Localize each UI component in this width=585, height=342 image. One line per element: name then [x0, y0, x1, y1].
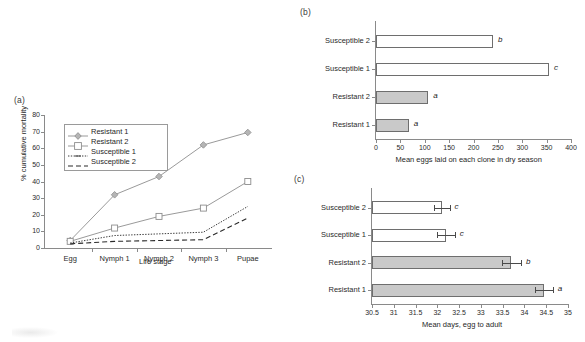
- panelB-x-tick: [547, 140, 548, 143]
- legend-label-susceptible-2: Susceptible 2: [91, 157, 136, 167]
- significance-letter: c: [554, 63, 558, 72]
- panel-a-y-tick: [41, 198, 44, 199]
- category-label-susceptible-2: Susceptible 2: [304, 36, 370, 45]
- category-label-resistant-2: Resistant 2: [304, 92, 370, 101]
- panelB-x-tick: [474, 140, 475, 143]
- error-bar-cap: [535, 287, 536, 293]
- panelC-x-tick: [503, 305, 504, 308]
- significance-letter: a: [414, 119, 418, 128]
- legend-label-susceptible-1: Susceptible 1: [91, 147, 136, 157]
- panelC-x-tick: [459, 305, 460, 308]
- panel-b-label: (b): [300, 7, 311, 17]
- panelB-x-tick: [571, 140, 572, 143]
- panelC-x-tick-label: 35: [552, 309, 584, 316]
- panel-a-y-tick-label: 0: [16, 244, 40, 251]
- significance-letter: c: [455, 202, 459, 211]
- panel-a-line-3: [70, 206, 248, 243]
- legend-swatch-resistant-2: [68, 137, 88, 147]
- panelB-x-tick: [449, 140, 450, 143]
- legend-swatch-susceptible-1: [68, 147, 88, 157]
- panel-a-y-tick-label: 80: [16, 111, 40, 118]
- data-point-marker: [245, 129, 252, 136]
- panel-a-line-2: [70, 182, 248, 242]
- error-bar: [502, 263, 521, 264]
- error-bar-cap: [434, 205, 435, 211]
- bar-susceptible-1: [376, 63, 549, 76]
- panel-a-y-tick: [41, 165, 44, 166]
- scan-artifact: [12, 327, 58, 338]
- error-bar-cap: [437, 232, 438, 238]
- panel-a-line-chart: (a) % cumulative mortality Resistant 1 R…: [0, 95, 300, 270]
- panelC-x-axis: [371, 304, 569, 305]
- legend-swatch-susceptible-2: [68, 157, 88, 167]
- panel-a-x-axis: [44, 248, 272, 249]
- category-label-susceptible-1: Susceptible 1: [304, 64, 370, 73]
- legend-item-susceptible-2: Susceptible 2: [68, 157, 164, 167]
- panel-a-y-tick: [41, 132, 44, 133]
- significance-letter: a: [558, 284, 562, 293]
- panelC-x-tick: [394, 305, 395, 308]
- panel-a-x-tick: [226, 249, 227, 252]
- panelB-x-tick: [498, 140, 499, 143]
- error-bar-cap: [521, 260, 522, 266]
- error-bar: [434, 208, 450, 209]
- panel-a-y-tick-label: 50: [16, 161, 40, 168]
- panelB-y-tick: [372, 125, 375, 126]
- data-point-marker: [245, 179, 251, 185]
- category-label-susceptible-2: Susceptible 2: [300, 203, 366, 212]
- panel-a-x-tick: [137, 249, 138, 252]
- legend-label-resistant-1: Resistant 1: [91, 127, 129, 137]
- significance-letter: c: [460, 229, 464, 238]
- legend-item-resistant-1: Resistant 1: [68, 127, 164, 137]
- panelB-y-tick: [372, 97, 375, 98]
- panelC-y-tick: [368, 263, 371, 264]
- significance-letter: b: [498, 35, 502, 44]
- panelB-x-tick: [376, 140, 377, 143]
- panelB-x-tick: [522, 140, 523, 143]
- panel-c-label: (c): [294, 174, 305, 184]
- legend-label-resistant-2: Resistant 2: [91, 137, 129, 147]
- data-point-marker: [200, 142, 207, 149]
- bar-susceptible-2: [372, 201, 442, 214]
- panelB-x-tick: [425, 140, 426, 143]
- panel-b-bar-chart: (b) Mean eggs laid on each clone in dry …: [298, 5, 585, 173]
- category-label-resistant-1: Resistant 1: [304, 120, 370, 129]
- data-point-marker: [112, 225, 118, 231]
- panel-c-bar-chart: (c) Mean days, egg to adult 30.53131.532…: [292, 172, 585, 342]
- panelC-x-tick: [416, 305, 417, 308]
- panelB-x-tick-label: 400: [555, 144, 585, 151]
- data-point-marker: [156, 213, 162, 219]
- panelC-x-tick: [546, 305, 547, 308]
- error-bar-cap: [455, 232, 456, 238]
- panelB-y-tick: [372, 69, 375, 70]
- panel-a-y-tick: [41, 215, 44, 216]
- panel-a-y-tick-label: 20: [16, 211, 40, 218]
- panelC-y-tick: [368, 235, 371, 236]
- error-bar: [437, 235, 454, 236]
- panel-a-y-tick-label: 30: [16, 194, 40, 201]
- panelC-x-tick: [568, 305, 569, 308]
- bar-susceptible-1: [372, 229, 446, 242]
- data-point-marker: [156, 173, 163, 180]
- panel-a-y-tick-label: 40: [16, 178, 40, 185]
- panelC-x-tick: [524, 305, 525, 308]
- panel-a-y-axis: [44, 115, 45, 249]
- panel-a-x-tick: [181, 249, 182, 252]
- panel-a-x-tick-label: Pupae: [222, 254, 274, 263]
- legend-swatch-resistant-1: [68, 127, 88, 137]
- data-point-marker: [200, 205, 206, 211]
- panel-a-y-tick-label: 60: [16, 144, 40, 151]
- bar-resistant-1: [372, 284, 544, 297]
- panel-a-legend: Resistant 1 Resistant 2 Susceptible 1 Su…: [64, 124, 168, 171]
- error-bar-cap: [450, 205, 451, 211]
- panel-a-y-tick: [41, 115, 44, 116]
- bar-resistant-1: [376, 119, 409, 132]
- panel-a-y-tick: [41, 148, 44, 149]
- legend-item-resistant-2: Resistant 2: [68, 137, 164, 147]
- significance-letter: b: [526, 257, 530, 266]
- significance-letter: a: [433, 91, 437, 100]
- error-bar: [535, 290, 552, 291]
- legend-item-susceptible-1: Susceptible 1: [68, 147, 164, 157]
- panelB-y-tick: [372, 41, 375, 42]
- panel-b-x-axis-title: Mean eggs laid on each clone in dry seas…: [396, 155, 542, 164]
